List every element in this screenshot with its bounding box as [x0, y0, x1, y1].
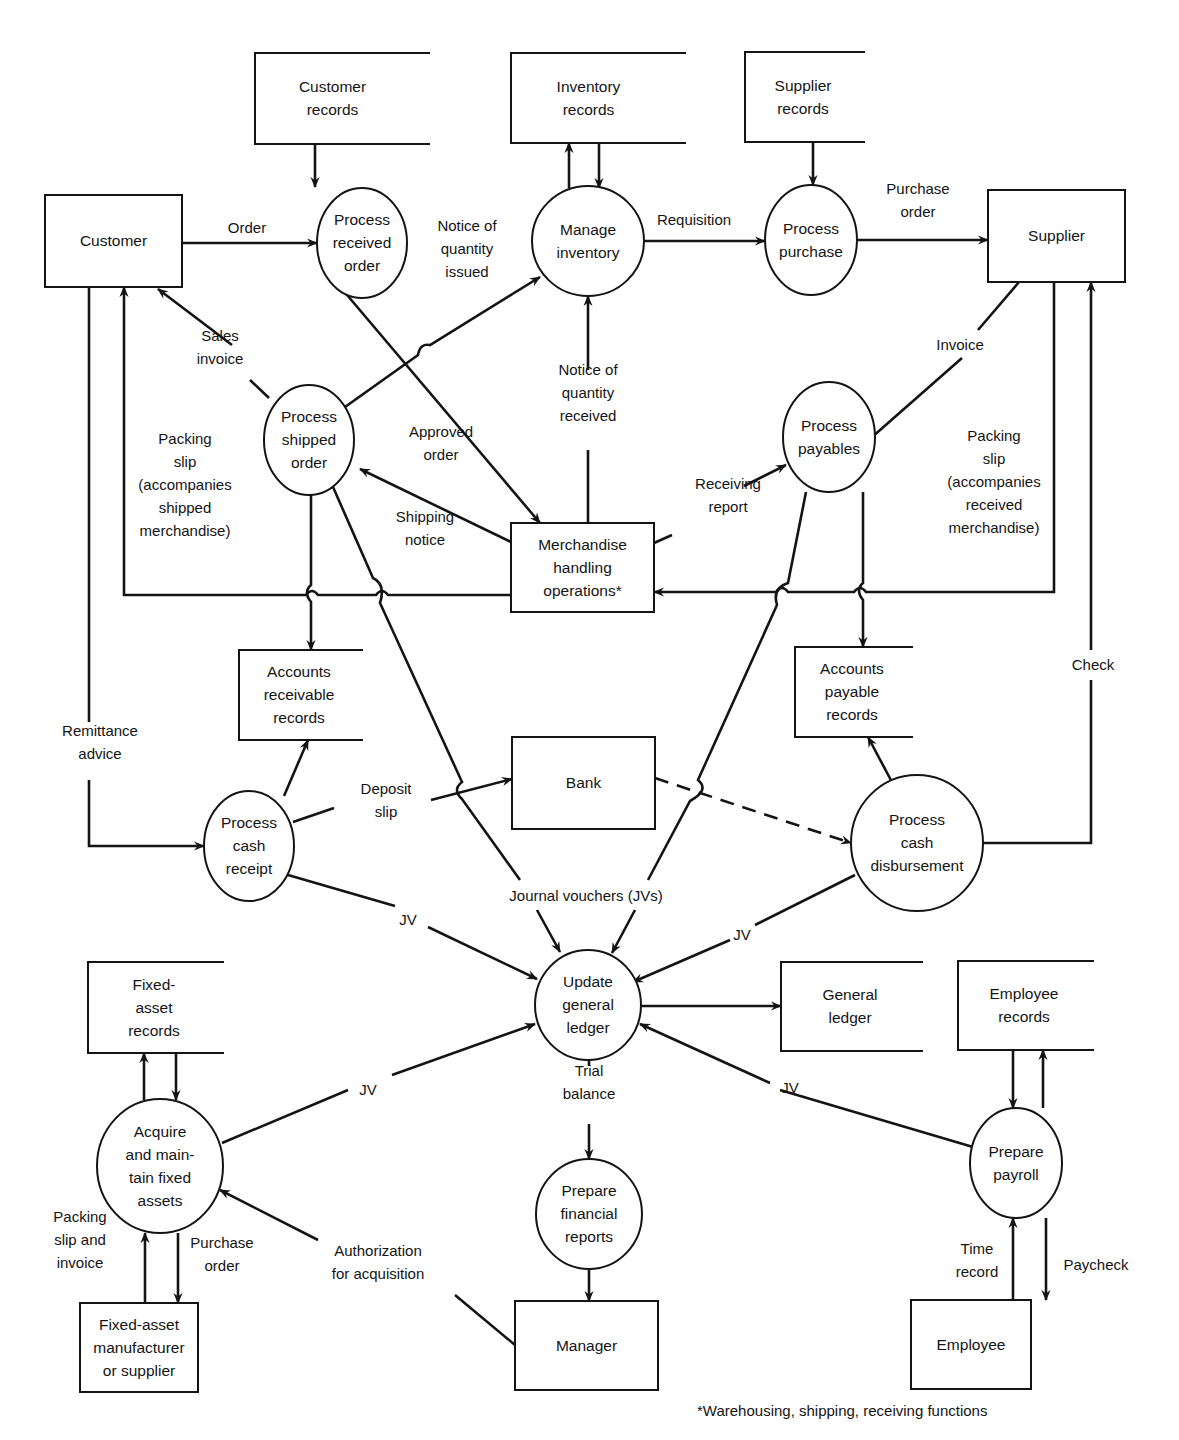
flow-label-trial-balance: Trialbalance	[563, 1062, 616, 1102]
process-circle	[783, 382, 875, 492]
flow-label-jv-cash-receipt: JV	[399, 911, 417, 928]
node-manage-inventory[interactable]: Manageinventory	[532, 186, 644, 296]
flow-label-authorization: Authorizationfor acquisition	[332, 1242, 425, 1282]
flow-label-packing-slip-received: Packingslip(accompaniesreceivedmerchandi…	[947, 427, 1040, 536]
node-acquire-fixed-assets[interactable]: Acquireand main-tain fixedassets	[97, 1099, 223, 1233]
data-flow-diagram: CustomerCustomerrecordsInventoryrecordsS…	[0, 0, 1179, 1440]
node-process-purchase[interactable]: Processpurchase	[765, 185, 857, 295]
node-label: Manager	[556, 1337, 617, 1354]
node-employee[interactable]: Employee	[911, 1300, 1031, 1389]
flow-label-deposit-slip: Depositslip	[361, 780, 413, 820]
node-process-received-order[interactable]: Processreceivedorder	[317, 188, 407, 298]
node-label: Preparefinancialreports	[561, 1182, 618, 1245]
flow-label-check: Check	[1072, 656, 1115, 673]
flow-label-fa-purchase-order: Purchaseorder	[190, 1234, 253, 1274]
node-inventory-records[interactable]: Inventoryrecords	[511, 53, 686, 143]
nodes-layer: CustomerCustomerrecordsInventoryrecordsS…	[45, 52, 1125, 1392]
node-label: Employee	[937, 1336, 1006, 1353]
process-circle	[532, 186, 644, 296]
flow-label-paycheck: Paycheck	[1063, 1256, 1129, 1273]
flow-payables-to-ap	[859, 492, 863, 647]
flow-shipped-to-ar	[307, 495, 311, 650]
flow-label-order: Order	[228, 219, 266, 236]
node-supplier-records[interactable]: Supplierrecords	[745, 52, 865, 142]
flow-jv-fixed-assets	[222, 1024, 535, 1143]
flow-label-purchase-order: Purchaseorder	[886, 180, 949, 220]
flow-cash-disbursement-to-ap	[868, 737, 893, 784]
node-ap-records[interactable]: Accountspayablerecords	[795, 647, 913, 737]
flow-sales-invoice	[158, 289, 269, 398]
node-fixed-asset-records[interactable]: Fixed-assetrecords	[88, 962, 224, 1053]
node-label: Fixed-assetrecords	[128, 976, 180, 1039]
flow-label-time-record: Timerecord	[956, 1240, 999, 1280]
flow-labels-layer: OrderApprovedorderRequisitionPurchaseord…	[53, 180, 1129, 1282]
flow-check	[983, 282, 1091, 843]
node-prepare-financial-reports[interactable]: Preparefinancialreports	[536, 1159, 642, 1269]
node-label: Customer	[80, 232, 147, 249]
node-general-ledger[interactable]: Generalledger	[781, 962, 923, 1051]
flow-label-journal-vouchers-label: Journal vouchers (JVs)	[509, 887, 662, 904]
process-circle	[970, 1108, 1062, 1218]
node-update-general-ledger[interactable]: Updategeneralledger	[535, 950, 641, 1060]
node-label: Bank	[566, 774, 602, 791]
flow-label-notice-qty-received: Notice ofquantityreceived	[558, 361, 618, 424]
flow-label-packing-slip-shipped: Packingslip(accompaniesshippedmerchandis…	[138, 430, 231, 539]
flow-label-jv-cash-disbursement: JV	[733, 926, 751, 943]
flow-label-receiving-report: Receivingreport	[695, 475, 761, 515]
flow-remittance-advice	[89, 287, 204, 846]
flow-label-requisition: Requisition	[657, 211, 731, 228]
footnote: *Warehousing, shipping, receiving functi…	[697, 1402, 987, 1419]
node-process-cash-receipt[interactable]: Processcashreceipt	[204, 791, 294, 901]
node-employee-records[interactable]: Employeerecords	[958, 961, 1094, 1050]
process-circle	[97, 1099, 223, 1233]
node-customer-records[interactable]: Customerrecords	[255, 53, 430, 144]
node-label: Fixed-assetmanufactureror supplier	[93, 1316, 184, 1379]
flow-label-invoice: Invoice	[936, 336, 984, 353]
flow-approved-order	[342, 289, 540, 523]
node-merchandise-handling[interactable]: Merchandisehandlingoperations*	[511, 523, 654, 612]
node-label: Accountspayablerecords	[820, 660, 884, 723]
node-label: Accountsreceivablerecords	[264, 663, 335, 726]
node-fixed-asset-supplier[interactable]: Fixed-assetmanufactureror supplier	[80, 1303, 198, 1392]
flow-label-jv-payroll: JV	[781, 1079, 799, 1096]
node-process-shipped-order[interactable]: Processshippedorder	[264, 385, 354, 495]
flow-cash-receipt-to-ar	[284, 740, 308, 796]
node-prepare-payroll[interactable]: Preparepayroll	[970, 1108, 1062, 1218]
node-label: Updategeneralledger	[562, 973, 614, 1036]
node-process-cash-disbursement[interactable]: Processcashdisbursement	[851, 775, 983, 911]
node-supplier[interactable]: Supplier	[988, 190, 1125, 282]
flow-label-notice-qty-issued: Notice ofquantityissued	[437, 217, 497, 280]
node-ar-records[interactable]: Accountsreceivablerecords	[239, 650, 363, 740]
process-circle	[765, 185, 857, 295]
flow-label-remittance-advice: Remittanceadvice	[62, 722, 138, 762]
flow-invoice	[863, 282, 1019, 445]
flow-label-sales-invoice: Salesinvoice	[197, 327, 244, 367]
flow-label-approved-order: Approvedorder	[409, 423, 473, 463]
node-bank[interactable]: Bank	[512, 737, 655, 829]
node-customer[interactable]: Customer	[45, 195, 182, 287]
flow-label-jv-fixed-assets: JV	[359, 1081, 377, 1098]
node-label: Supplier	[1028, 227, 1085, 244]
flow-label-shipping-notice: Shippingnotice	[396, 508, 454, 548]
node-process-payables[interactable]: Processpayables	[783, 382, 875, 492]
flow-label-packing-slip-invoice: Packingslip andinvoice	[53, 1208, 106, 1271]
node-manager[interactable]: Manager	[515, 1301, 658, 1390]
